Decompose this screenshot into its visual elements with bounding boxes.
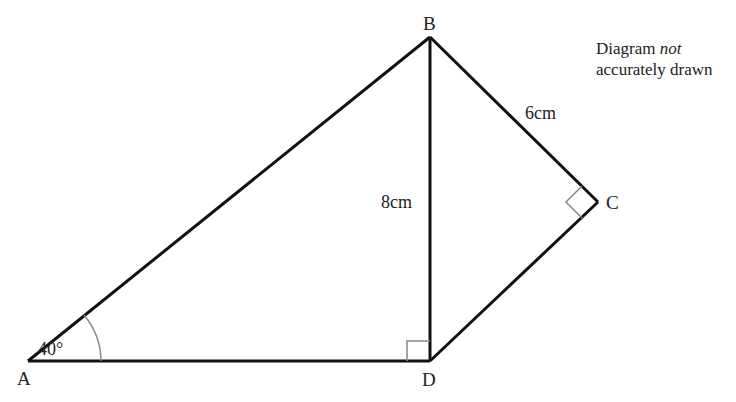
- note-line-2: accurately drawn: [596, 59, 713, 80]
- angle-label-a: 40°: [38, 339, 63, 359]
- note-line-1: Diagram not: [596, 38, 713, 59]
- length-label-bc: 6cm: [525, 103, 556, 123]
- right-angle-marker-c: [566, 186, 582, 218]
- note-prefix: Diagram: [596, 39, 660, 58]
- note-italic-not: not: [660, 39, 682, 58]
- vertex-label-b: B: [423, 13, 436, 34]
- length-label-bd: 8cm: [381, 192, 412, 212]
- vertex-label-c: C: [606, 192, 619, 213]
- not-to-scale-note: Diagram not accurately drawn: [596, 38, 713, 80]
- vertex-label-a: A: [17, 368, 31, 389]
- segment-ab: [28, 37, 430, 361]
- segment-bc: [430, 37, 598, 202]
- segment-cd: [430, 202, 598, 361]
- vertex-label-d: D: [422, 369, 436, 390]
- angle-arc-a: [84, 315, 101, 361]
- right-angle-marker-d: [407, 341, 430, 361]
